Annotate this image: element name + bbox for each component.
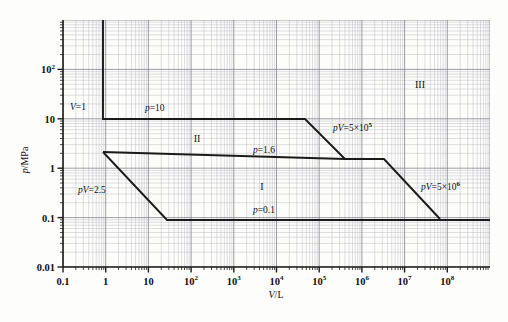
annotation-pV5e6: pV=5×106 [420,180,461,192]
y-axis-title: p/MPa [19,146,30,174]
annotation-pV25: pV=2.5 [77,185,106,195]
x-axis-title: V/L [269,289,284,300]
annotation-pV5e5: pV=5×105 [332,121,373,133]
region-label-III: III [415,79,425,90]
y-tick-label-3: 10 [45,114,56,125]
y-tick-label-0: 0.01 [37,262,55,273]
annotation-p10: p=10 [144,103,165,113]
region-label-I: I [260,181,263,192]
annotation-p16: p=1.6 [252,145,275,155]
x-tick-label-2: 10 [143,276,154,287]
page-root: 0.010.1110102 0.111010210310410510610710… [0,0,508,322]
annotation-p01: p=0.1 [252,205,275,215]
chart-svg: 0.010.1110102 0.111010210310410510610710… [0,0,508,322]
x-tick-label-0: 0.1 [56,276,69,287]
y-axis-title-unit: /MPa [19,146,30,168]
log-log-chart-figure: 0.010.1110102 0.111010210310410510610710… [0,0,508,322]
annotation-V1: V=1 [70,102,86,112]
y-tick-label-2: 1 [50,163,55,174]
svg-text:V/L: V/L [269,289,284,300]
y-tick-label-1: 0.1 [42,213,55,224]
region-label-II: II [194,133,201,144]
x-axis-title-unit: /L [275,289,284,300]
x-tick-label-1: 1 [103,276,108,287]
svg-text:p/MPa: p/MPa [19,146,30,174]
